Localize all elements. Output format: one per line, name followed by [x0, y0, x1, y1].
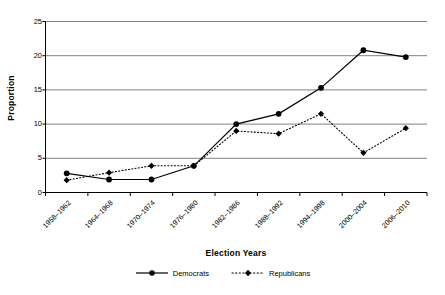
- legend-label-republicans: Republicans: [269, 269, 310, 278]
- legend-label-democrats: Democrats: [173, 269, 209, 278]
- legend-item-democrats: Democrats: [135, 268, 209, 278]
- chart-legend: Democrats Republicans: [0, 268, 445, 278]
- legend-marker-republicans: [231, 268, 265, 278]
- x-axis-title-wrap: Election Years: [45, 242, 427, 260]
- x-axis-title: Election Years: [206, 248, 267, 258]
- line-chart: Proportion 0510152025 1958–19621964–1968…: [0, 0, 445, 295]
- legend-item-republicans: Republicans: [231, 268, 310, 278]
- legend-marker-democrats: [135, 268, 169, 278]
